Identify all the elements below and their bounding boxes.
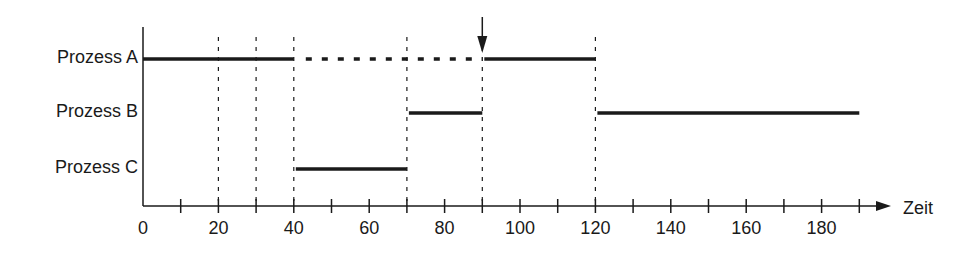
event-arrow-icon (477, 36, 487, 53)
process-timeline-diagram: Prozess A Prozess B Prozess C 0204060801… (0, 0, 974, 253)
x-axis-arrow-icon (876, 201, 891, 211)
x-axis-tick-label: 40 (284, 219, 304, 237)
x-axis-tick-label: 0 (138, 219, 148, 237)
x-axis-tick-label: 80 (435, 219, 455, 237)
x-axis-tick-label: 60 (359, 219, 379, 237)
x-axis-title: Zeit (903, 199, 933, 217)
timeline-canvas (0, 0, 974, 253)
x-axis-tick-label: 100 (505, 219, 535, 237)
process-a-label: Prozess A (57, 48, 138, 66)
process-b-label: Prozess B (56, 102, 138, 120)
x-axis-tick-label: 20 (208, 219, 228, 237)
x-axis-tick-label: 140 (656, 219, 686, 237)
x-axis-tick-label: 120 (580, 219, 610, 237)
x-axis-tick-label: 180 (807, 219, 837, 237)
x-axis-tick-label: 160 (731, 219, 761, 237)
process-c-label: Prozess C (55, 158, 138, 176)
